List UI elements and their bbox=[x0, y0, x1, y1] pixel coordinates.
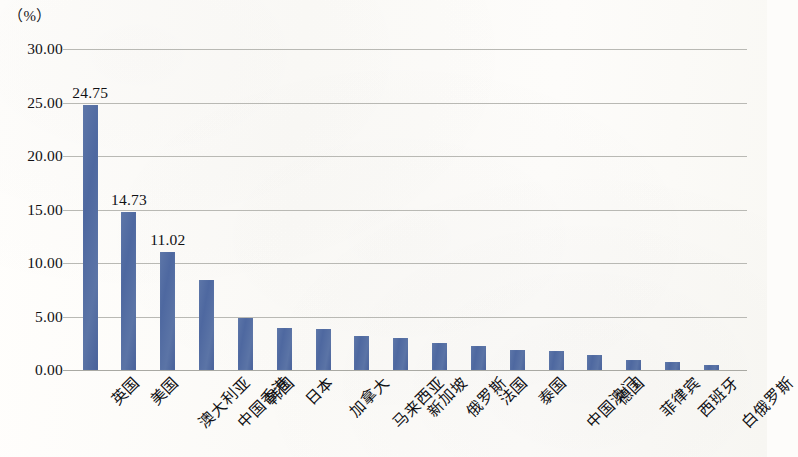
bar[interactable] bbox=[626, 360, 641, 370]
x-axis-category-label: 日本 bbox=[303, 374, 337, 408]
bar-value-label: 14.73 bbox=[111, 191, 147, 209]
y-axis-tick-label: 30.00 bbox=[1, 40, 63, 58]
bar-group[interactable] bbox=[471, 49, 486, 370]
y-axis-tick-label: 5.00 bbox=[1, 308, 63, 326]
bar[interactable] bbox=[587, 355, 602, 371]
y-axis-tick-label: 25.00 bbox=[1, 94, 63, 112]
bar-group[interactable] bbox=[587, 49, 602, 370]
bar[interactable] bbox=[510, 350, 525, 370]
bar-group[interactable] bbox=[510, 49, 525, 370]
bar-value-label: 11.02 bbox=[150, 231, 185, 249]
bar[interactable] bbox=[704, 365, 719, 370]
bar[interactable] bbox=[354, 336, 369, 370]
x-axis-category-label: 美国 bbox=[148, 374, 182, 408]
x-axis-category-label: 泰国 bbox=[536, 374, 570, 408]
x-axis-category-label: 韩国 bbox=[264, 374, 298, 408]
y-axis-tick-label: 15.00 bbox=[1, 201, 63, 219]
bar[interactable] bbox=[238, 318, 253, 370]
bar[interactable] bbox=[549, 351, 564, 370]
bar-group[interactable] bbox=[238, 49, 253, 370]
bar-group[interactable] bbox=[199, 49, 214, 370]
bar[interactable] bbox=[665, 362, 680, 370]
bar-group[interactable] bbox=[704, 49, 719, 370]
bar-group[interactable]: 14.73 bbox=[121, 49, 136, 370]
bar[interactable] bbox=[199, 280, 214, 370]
bar[interactable] bbox=[432, 343, 447, 370]
bar-group[interactable] bbox=[432, 49, 447, 370]
y-axis-tick-label: 20.00 bbox=[1, 147, 63, 165]
x-axis-category-label: 菲律宾 bbox=[657, 374, 703, 420]
bar[interactable] bbox=[83, 105, 98, 370]
bar[interactable] bbox=[121, 212, 136, 370]
bar-group[interactable] bbox=[626, 49, 641, 370]
bar[interactable] bbox=[393, 338, 408, 370]
bar[interactable] bbox=[160, 252, 175, 370]
bar[interactable] bbox=[471, 346, 486, 370]
x-axis-category-labels: 英国美国澳大利亚中国香港韩国日本加拿大马来西亚新加坡俄罗斯法国泰国中国澳门德国菲… bbox=[0, 374, 767, 457]
x-axis-category-label: 英国 bbox=[109, 374, 143, 408]
x-axis-category-label: 西班牙 bbox=[696, 374, 742, 420]
bar-group[interactable] bbox=[277, 49, 292, 370]
y-axis-unit-label: （%） bbox=[8, 4, 52, 25]
bar-group[interactable] bbox=[549, 49, 564, 370]
bars-layer: 24.7514.7311.02 bbox=[63, 49, 747, 370]
gridline bbox=[63, 370, 747, 371]
bar-group[interactable] bbox=[354, 49, 369, 370]
bar[interactable] bbox=[316, 329, 331, 370]
x-axis-category-label: 加拿大 bbox=[346, 374, 392, 420]
bar-group[interactable]: 11.02 bbox=[160, 49, 175, 370]
bar[interactable] bbox=[277, 328, 292, 370]
bar-group[interactable] bbox=[665, 49, 680, 370]
bar-group[interactable] bbox=[316, 49, 331, 370]
bar-value-label: 24.75 bbox=[72, 84, 108, 102]
x-axis-category-label: 白俄罗斯 bbox=[739, 374, 796, 431]
bar-group[interactable]: 24.75 bbox=[83, 49, 98, 370]
plot-area: 24.7514.7311.02 bbox=[63, 49, 747, 370]
y-axis-tick-label: 10.00 bbox=[1, 254, 63, 272]
bar-group[interactable] bbox=[393, 49, 408, 370]
